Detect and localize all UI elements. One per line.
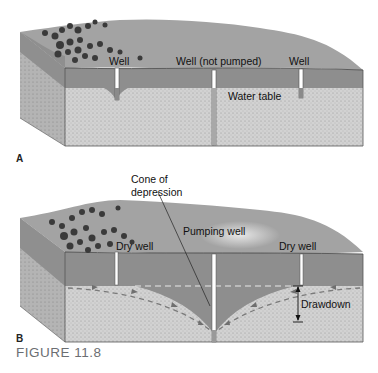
label-drawdown: Drawdown bbox=[301, 299, 351, 310]
label-cone-line1: Cone of bbox=[131, 174, 168, 185]
label-cone-line2: depression bbox=[131, 187, 182, 198]
label-dry-well-left: Dry well bbox=[116, 241, 153, 252]
label-well-left-a: Well bbox=[109, 56, 129, 67]
label-well-right-a: Well bbox=[289, 56, 309, 67]
dry-well-right bbox=[300, 254, 303, 285]
label-water-table: Water table bbox=[228, 91, 281, 102]
dry-well-left bbox=[115, 252, 118, 285]
panel-b-block bbox=[20, 192, 363, 342]
panel-letter-a: A bbox=[16, 153, 23, 164]
panel-a-block bbox=[20, 19, 363, 146]
figure-caption: FIGURE 11.8 bbox=[16, 345, 102, 360]
label-well-not-pumped: Well (not pumped) bbox=[176, 56, 262, 67]
label-pumping-well: Pumping well bbox=[183, 226, 245, 237]
label-dry-well-right: Dry well bbox=[279, 241, 316, 252]
panel-letter-b: B bbox=[16, 333, 23, 344]
pumping-well bbox=[212, 254, 216, 342]
